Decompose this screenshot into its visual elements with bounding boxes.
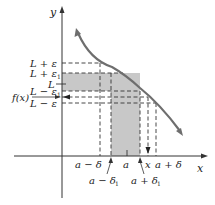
label-a-plus-delta1-sub: 1 [157, 180, 161, 187]
epsilon-delta-diagram: y x L + ε L + ε 1 L L − ε 1 f(x) L − ε a… [0, 0, 215, 205]
x-axis-arrow-icon [201, 154, 208, 159]
pointer-a-plus-delta1-arrow-icon [138, 157, 143, 163]
label-L-minus-eps: L − ε [29, 98, 57, 109]
label-a-plus-delta: a + δ [155, 159, 182, 170]
label-a-minus-delta: a − δ [75, 159, 102, 170]
curve-arrow-bottom-icon [176, 128, 183, 136]
label-L-plus-eps1-sub: 1 [57, 73, 61, 80]
x-axis-label: x [197, 162, 204, 175]
label-L-plus-eps1: L + ε [29, 68, 57, 79]
label-x: x [145, 159, 151, 170]
label-a: a [123, 159, 129, 170]
label-a-plus-delta1: a + δ [131, 175, 158, 186]
y-axis-label: y [49, 6, 57, 19]
label-L-minus-eps1-sub: 1 [57, 91, 61, 98]
fx-arrow-icon [63, 95, 70, 100]
label-a-minus-delta1: a − δ [89, 175, 116, 186]
pointer-a-minus-delta1-arrow-icon [109, 157, 114, 163]
label-fx: f(x) [11, 92, 29, 103]
shaded-band-horizontal [62, 73, 112, 91]
label-a-minus-delta1-sub: 1 [115, 180, 119, 187]
y-axis-arrow-icon [60, 6, 65, 13]
label-L-minus-eps1: L − ε [29, 86, 57, 97]
x-down-arrow-icon [146, 147, 151, 154]
